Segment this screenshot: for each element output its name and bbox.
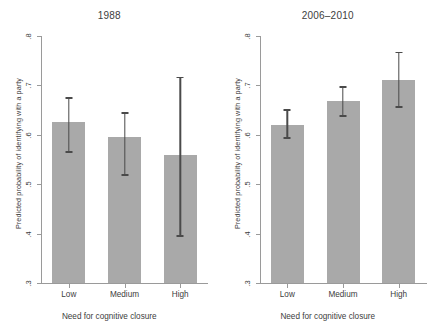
- x-tick-mark: [287, 284, 288, 288]
- error-bar-cap-upper-low: [284, 109, 291, 111]
- error-bar-cap-lower-low: [284, 137, 291, 139]
- error-bar-cap-lower-high: [395, 106, 402, 108]
- error-bar-line-medium: [124, 112, 125, 176]
- y-tick-mark: [256, 234, 260, 235]
- y-tick-label: .6: [24, 129, 33, 141]
- error-bar-cap-lower-medium: [121, 174, 128, 176]
- bar-low: [271, 125, 304, 283]
- y-tick-label: .5: [242, 179, 251, 191]
- error-bar-cap-upper-medium: [340, 86, 347, 88]
- y-tick-mark: [37, 234, 41, 235]
- y-tick-label: .8: [242, 31, 251, 43]
- error-bar-cap-lower-high: [177, 235, 184, 237]
- error-bar-line-low: [68, 97, 69, 152]
- y-tick-label: .5: [24, 179, 33, 191]
- y-tick-label: .3: [24, 278, 33, 290]
- y-tick-mark: [256, 85, 260, 86]
- y-tick-label: .7: [24, 80, 33, 92]
- y-tick-label: .6: [242, 129, 251, 141]
- y-tick-label: .7: [242, 80, 251, 92]
- y-tick-mark: [37, 283, 41, 284]
- y-tick-label: .4: [242, 228, 251, 240]
- y-axis-label: Predicted probability of identifying wit…: [233, 30, 242, 277]
- error-bar-cap-upper-low: [65, 97, 72, 99]
- x-axis-label: Need for cognitive closure: [0, 312, 219, 321]
- panel-title: 1988: [0, 10, 219, 21]
- x-tick-mark: [399, 284, 400, 288]
- y-axis-label: Predicted probability of identifying wit…: [14, 30, 23, 277]
- error-bar-line-high: [179, 77, 180, 238]
- x-axis-label: Need for cognitive closure: [219, 312, 437, 321]
- y-tick-mark: [37, 85, 41, 86]
- x-tick-label-low: Low: [280, 290, 295, 299]
- y-tick-mark: [256, 283, 260, 284]
- y-tick-mark: [256, 135, 260, 136]
- error-bar-cap-lower-medium: [340, 115, 347, 117]
- chart-panel-2: 2006–2010Predicted probability of identi…: [219, 0, 437, 332]
- y-tick-mark: [37, 184, 41, 185]
- x-tick-mark: [343, 284, 344, 288]
- error-bar-line-medium: [342, 86, 343, 116]
- x-tick-label-medium: Medium: [328, 290, 357, 299]
- x-tick-label-medium: Medium: [110, 290, 139, 299]
- chart-panel-1: 1988Predicted probability of identifying…: [0, 0, 219, 332]
- x-tick-mark: [125, 284, 126, 288]
- panel-title: 2006–2010: [219, 10, 437, 21]
- figure-container: 1988Predicted probability of identifying…: [0, 0, 437, 332]
- y-tick-mark: [256, 36, 260, 37]
- x-tick-mark: [69, 284, 70, 288]
- bar-medium: [327, 101, 360, 283]
- error-bar-line-low: [287, 109, 288, 139]
- y-axis-line: [260, 36, 261, 284]
- y-tick-label: .4: [24, 228, 33, 240]
- y-tick-label: .3: [242, 278, 251, 290]
- y-tick-mark: [37, 135, 41, 136]
- error-bar-cap-lower-low: [65, 151, 72, 153]
- error-bar-line-high: [398, 52, 399, 108]
- y-tick-label: .8: [24, 31, 33, 43]
- error-bar-cap-upper-high: [395, 52, 402, 54]
- bar-high: [382, 80, 415, 283]
- x-tick-mark: [180, 284, 181, 288]
- y-axis-line: [41, 36, 42, 284]
- y-tick-mark: [37, 36, 41, 37]
- error-bar-cap-upper-medium: [121, 112, 128, 114]
- x-tick-label-high: High: [390, 290, 407, 299]
- x-tick-label-high: High: [172, 290, 189, 299]
- x-tick-label-low: Low: [61, 290, 76, 299]
- error-bar-cap-upper-high: [177, 77, 184, 79]
- y-tick-mark: [256, 184, 260, 185]
